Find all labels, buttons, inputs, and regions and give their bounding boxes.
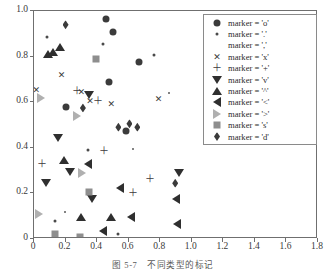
data-point-o: [214, 19, 221, 26]
data-point: ＋: [93, 96, 103, 106]
data-point: [116, 233, 119, 236]
y-tick-label: 0.6: [2, 95, 28, 106]
data-point: [76, 213, 86, 221]
data-point: [62, 103, 69, 110]
data-point: [84, 159, 92, 169]
data-point: [73, 111, 81, 121]
figure-caption: 图 5-7不同类型的标记: [0, 258, 326, 270]
legend-marker-,: [206, 40, 228, 51]
data-point: [54, 219, 57, 222]
data-point: [65, 168, 75, 176]
legend-label: marker = '+': [228, 63, 269, 73]
data-point: [43, 50, 53, 58]
x-tick-label: 0.2: [50, 241, 80, 252]
x-tick-label: 1.0: [176, 241, 206, 252]
data-point: [172, 194, 180, 204]
x-tick-label: 0.8: [144, 241, 174, 252]
y-tick-label: 0: [2, 232, 28, 243]
legend-marker-v: [206, 74, 228, 85]
figure-container: ✕✕✕✕✕✕＋＋＋＋＋＋ 00.20.40.60.81.01.21.41.61.…: [0, 0, 326, 277]
y-tick-mark: [30, 238, 34, 239]
legend-item[interactable]: marker = 'd': [206, 131, 313, 142]
legend-label: marker = 'v': [228, 75, 269, 85]
data-point: [63, 20, 69, 29]
data-point: [35, 209, 43, 219]
x-tick-label: 1.2: [207, 241, 237, 252]
data-point-<: [213, 97, 221, 107]
legend-item[interactable]: marker = 'v': [206, 74, 313, 85]
legend-box[interactable]: marker = 'o'marker = '.'marker = ','✕mar…: [203, 14, 317, 145]
data-point: [168, 92, 170, 94]
x-tick-label: 0.4: [81, 241, 111, 252]
data-point: [86, 189, 93, 196]
data-point: [134, 123, 140, 132]
data-point: [64, 211, 66, 213]
legend-item[interactable]: marker = '<': [206, 97, 313, 108]
legend-marker-s: [206, 120, 228, 131]
data-point: [78, 168, 86, 178]
legend-marker-+: ＋: [206, 63, 228, 74]
data-point: [93, 55, 100, 62]
caption-number: 图 5-7: [112, 260, 137, 270]
x-tick-label: 1.4: [239, 241, 269, 252]
legend-item[interactable]: marker = ',': [206, 40, 313, 51]
legend-label: marker = '^': [228, 86, 269, 96]
data-point: [41, 179, 51, 187]
data-point: [116, 183, 124, 193]
legend-label: marker = '>': [228, 109, 269, 119]
y-tick-label: 1.0: [2, 4, 28, 15]
data-point: [48, 48, 58, 56]
data-point: ✕: [86, 97, 94, 106]
data-point: ＋: [128, 188, 138, 198]
legend-item[interactable]: marker = '.': [206, 28, 313, 39]
y-tick-mark: [30, 10, 34, 11]
y-tick-label: 0.2: [2, 186, 28, 197]
x-tick-label: 0.6: [113, 241, 143, 252]
legend-item[interactable]: marker = '^': [206, 85, 313, 96]
legend-item[interactable]: marker = '>': [206, 108, 313, 119]
data-point: [84, 91, 94, 99]
legend-marker-.: [206, 29, 228, 40]
legend-item[interactable]: ✕marker = 'x': [206, 51, 313, 62]
y-tick-mark: [30, 101, 34, 102]
legend-item[interactable]: ＋marker = '+': [206, 63, 313, 74]
data-point: ✕: [108, 100, 116, 109]
y-tick-mark: [30, 192, 34, 193]
legend-label: marker = '.': [228, 29, 267, 39]
data-point-d: [214, 132, 220, 141]
data-point: [87, 149, 90, 152]
data-point-^: [212, 87, 222, 95]
legend-label: marker = ',': [228, 40, 267, 50]
data-point: [115, 123, 121, 132]
data-point: [127, 212, 135, 222]
data-point: [80, 103, 86, 112]
legend-item[interactable]: marker = 'o': [206, 17, 313, 28]
data-point: [37, 93, 45, 103]
y-tick-label: 0.4: [2, 141, 28, 152]
legend-item[interactable]: marker = 's': [206, 120, 313, 131]
data-point: [109, 28, 116, 35]
data-point: [106, 213, 116, 221]
data-point: ＋: [37, 159, 47, 169]
data-point: [87, 195, 97, 203]
legend-marker-<: [206, 97, 228, 108]
data-point: [123, 127, 130, 134]
data-point: [173, 219, 181, 229]
data-point: ＋: [99, 146, 109, 156]
data-point: [55, 43, 65, 51]
legend-marker-d: [206, 131, 228, 142]
data-point: ✕: [58, 70, 66, 79]
data-point: ＋: [145, 174, 155, 184]
data-point: [105, 78, 112, 85]
legend-marker->: [206, 108, 228, 119]
data-point: [46, 36, 49, 39]
y-tick-label: 0.8: [2, 50, 28, 61]
data-point: [102, 43, 105, 46]
data-point: [76, 233, 83, 237]
data-point: [102, 15, 109, 22]
data-point: [59, 156, 69, 164]
data-point: ＋: [72, 86, 82, 96]
data-point-s: [214, 122, 221, 129]
y-tick-mark: [30, 147, 34, 148]
data-point: ✕: [155, 94, 163, 103]
